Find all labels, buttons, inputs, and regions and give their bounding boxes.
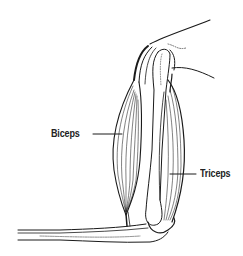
shoulder-outline bbox=[150, 20, 210, 44]
triceps-label: Triceps bbox=[200, 167, 230, 179]
shoulder-back bbox=[172, 67, 214, 78]
arm-muscle-diagram: Biceps Triceps bbox=[0, 0, 243, 256]
arm-illustration bbox=[0, 0, 243, 256]
shoulder-joint bbox=[168, 44, 186, 49]
biceps-label: Biceps bbox=[51, 127, 80, 139]
